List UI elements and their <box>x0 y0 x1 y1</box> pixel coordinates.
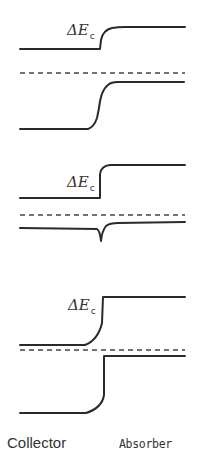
delta-ec-subscript: c <box>90 183 95 193</box>
conduction-band-1 <box>20 27 185 49</box>
valence-band-2 <box>20 222 185 241</box>
delta-ec-text: ΔE <box>67 173 89 191</box>
absorber-label: Absorber <box>119 437 172 451</box>
delta-ec-text: ΔE <box>67 21 89 39</box>
valence-band-1 <box>20 82 184 129</box>
delta-ec-subscript: c <box>91 306 96 316</box>
panel-2 <box>20 165 185 241</box>
delta-ec-label-3: ΔEc <box>68 296 96 316</box>
delta-ec-label-2: ΔEc <box>67 173 95 193</box>
delta-ec-subscript: c <box>90 31 95 41</box>
panel-3 <box>20 297 185 413</box>
conduction-band-2 <box>20 165 185 198</box>
valence-band-3 <box>20 356 185 413</box>
collector-label: Collector <box>7 434 66 451</box>
band-diagram <box>0 0 199 475</box>
conduction-band-3 <box>20 297 185 345</box>
panel-1 <box>20 27 185 129</box>
delta-ec-label-1: ΔEc <box>67 21 95 41</box>
delta-ec-text: ΔE <box>68 296 90 314</box>
